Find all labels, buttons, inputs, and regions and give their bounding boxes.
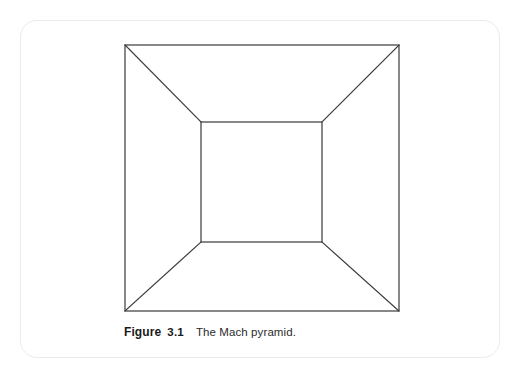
figure-caption-text: The Mach pyramid. <box>196 326 296 338</box>
figure-caption-number: 3.1 <box>167 326 184 338</box>
figure-caption-label: Figure <box>124 325 161 339</box>
figure-card <box>20 20 500 358</box>
figure-caption: Figure3.1The Mach pyramid. <box>124 323 464 341</box>
page-root: Figure3.1The Mach pyramid. <box>0 0 524 372</box>
